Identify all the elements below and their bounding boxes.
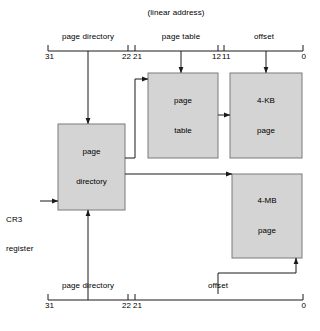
four-kb-page-box-label-line2: page bbox=[257, 126, 275, 136]
top-bit-31: 31 bbox=[45, 52, 54, 62]
top-field-label-page-table: page table bbox=[162, 32, 200, 42]
cr3-register-label-line1: CR3 bbox=[6, 215, 33, 225]
top-bit-21: 21 bbox=[133, 52, 142, 62]
four-mb-page-box-label: 4-MB page bbox=[257, 176, 276, 256]
cr3-register-label-line2: register bbox=[6, 244, 33, 254]
page-table-box-label: page table bbox=[174, 76, 192, 156]
arrow-bottom-offset-to-4mb-page bbox=[218, 258, 296, 294]
page-directory-box-label: page directory bbox=[76, 127, 107, 207]
page-table-box-label-line2: table bbox=[174, 126, 192, 136]
top-bit-11: 11 bbox=[222, 52, 231, 62]
diagram-vector-layer bbox=[0, 0, 320, 331]
top-bit-22: 22 bbox=[122, 52, 131, 62]
bottom-bit-22: 22 bbox=[122, 301, 131, 311]
bottom-field-label-offset: offset bbox=[208, 281, 228, 291]
top-bit-12: 12 bbox=[212, 52, 221, 62]
page-directory-box-label-line2: directory bbox=[76, 177, 107, 187]
top-field-label-page-directory: page directory bbox=[62, 32, 114, 42]
page-table-box-label-line1: page bbox=[174, 96, 192, 106]
bottom-bit-21: 21 bbox=[133, 301, 142, 311]
top-field-label-offset: offset bbox=[254, 32, 274, 42]
top-ruler bbox=[48, 45, 303, 51]
page-directory-box-label-line1: page bbox=[76, 147, 107, 157]
bottom-ruler bbox=[48, 294, 303, 300]
four-mb-page-box-label-line1: 4-MB bbox=[257, 196, 276, 206]
paging-translation-diagram: (linear address) page directory page tab… bbox=[0, 0, 320, 331]
four-mb-page-box-label-line2: page bbox=[257, 226, 276, 236]
four-kb-page-box-label: 4-KB page bbox=[257, 76, 275, 156]
arrow-pagedir-to-pagetable bbox=[125, 79, 148, 158]
bottom-field-label-page-directory: page directory bbox=[62, 281, 114, 291]
four-kb-page-box-label-line1: 4-KB bbox=[257, 96, 275, 106]
bottom-bit-31: 31 bbox=[45, 301, 54, 311]
top-bit-0: 0 bbox=[301, 52, 306, 62]
cr3-register-label: CR3 register bbox=[6, 196, 33, 272]
bottom-bit-0: 0 bbox=[301, 301, 306, 311]
diagram-title: (linear address) bbox=[147, 8, 204, 18]
